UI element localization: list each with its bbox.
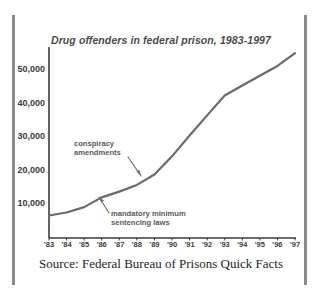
annotation-mandatory-line1: mandatory minimum — [111, 209, 186, 218]
data-series-line — [49, 53, 295, 215]
annotation-conspiracy-line2: amendments — [74, 148, 121, 157]
annotation-conspiracy-amendments: conspiracy amendments — [74, 139, 121, 157]
annotation-mandatory-line2: sentencing laws — [111, 218, 186, 227]
x-axis-tick-labels: '83'84'85'86'87'88'89'90'91'92'93'94'95'… — [49, 240, 295, 254]
annotation-conspiracy-line1: conspiracy — [74, 139, 121, 148]
chart-figure: Drug offenders in federal prison, 1983-1… — [0, 0, 322, 301]
annotation-mandatory-minimum-sentencing: mandatory minimum sentencing laws — [111, 209, 186, 227]
source-caption: Source: Federal Bureau of Prisons Quick … — [0, 256, 322, 272]
x-axis-tick-97: '97 — [284, 240, 306, 249]
